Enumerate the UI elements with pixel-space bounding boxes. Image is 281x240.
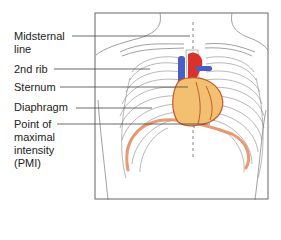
heart — [173, 78, 223, 126]
pulmonary-vein — [196, 66, 212, 71]
torso-outline — [98, 100, 108, 200]
label-diaphragm: Diaphragm — [14, 101, 68, 114]
label-pmi: Point of maximal intensity (PMI) — [14, 118, 55, 170]
label-sternum: Sternum — [14, 81, 56, 94]
label-2nd-rib: 2nd rib — [14, 63, 48, 76]
label-midsternal-line: Midsternal line — [14, 30, 65, 56]
clavicle-left — [120, 44, 184, 52]
ribcage-left — [120, 57, 180, 178]
